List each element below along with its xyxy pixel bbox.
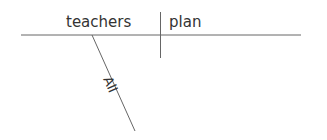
subject-word: teachers — [66, 15, 131, 30]
diagram-lines — [0, 0, 327, 140]
verb-word: plan — [169, 15, 201, 30]
